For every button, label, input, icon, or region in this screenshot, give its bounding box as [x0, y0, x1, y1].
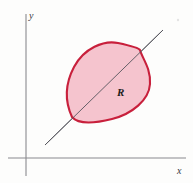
region-label-r: R: [116, 86, 124, 98]
y-axis-label: y: [28, 10, 34, 21]
region-figure-svg: y x R: [0, 0, 193, 183]
x-axis-label: x: [176, 165, 182, 176]
paper-speck-decoration: [177, 19, 179, 21]
figure-container: y x R: [0, 0, 193, 183]
